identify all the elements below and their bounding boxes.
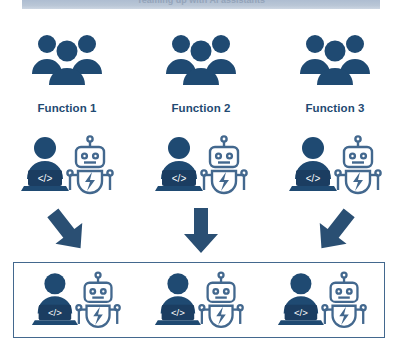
merged-member-1: </> (14, 269, 137, 331)
merged-team-box: </> (13, 262, 385, 338)
banner-title: Teaming up with AI assistants (22, 0, 380, 5)
developer-laptop-icon: </> (155, 273, 201, 325)
arrow-cell-2 (134, 206, 268, 260)
human-robot-pair-1: </> (0, 133, 134, 197)
top-banner: Teaming up with AI assistants (22, 0, 380, 9)
merged-member-3: </> (261, 269, 384, 331)
arrow-cell-3 (268, 206, 402, 260)
function-label-3: Function 3 (305, 102, 364, 114)
function-column-2: Function 2 (134, 30, 268, 114)
function-label-1: Function 1 (37, 102, 96, 114)
svg-text:</>: </> (172, 173, 187, 184)
arrow-down-left-icon (308, 206, 362, 260)
function-label-2: Function 2 (171, 102, 230, 114)
svg-text:</>: </> (171, 307, 185, 318)
developer-laptop-icon: </> (155, 137, 203, 191)
developer-laptop-icon: </> (21, 137, 69, 191)
arrow-down-icon (174, 206, 228, 260)
human-robot-pair-3: </> (268, 133, 402, 197)
arrow-down-right-icon (40, 206, 94, 260)
people-group-icon (298, 30, 372, 90)
svg-text:</>: </> (294, 307, 308, 318)
developer-laptop-icon: </> (278, 273, 324, 325)
svg-text:</>: </> (38, 173, 53, 184)
people-group-icon (30, 30, 104, 90)
function-columns: Function 1 Function 2 (0, 30, 402, 114)
arrow-cell-1 (0, 206, 134, 260)
function-column-1: Function 1 (0, 30, 134, 114)
function-column-3: Function 3 (268, 30, 402, 114)
human-robot-pair-row: </> (0, 133, 402, 197)
human-robot-pair-2: </> (134, 133, 268, 197)
svg-text:</>: </> (48, 307, 62, 318)
developer-laptop-icon: </> (289, 137, 337, 191)
people-group-icon (164, 30, 238, 90)
developer-laptop-icon: </> (32, 273, 78, 325)
svg-text:</>: </> (306, 173, 321, 184)
convergence-arrow-row (0, 206, 402, 260)
merged-member-2: </> (137, 269, 260, 331)
